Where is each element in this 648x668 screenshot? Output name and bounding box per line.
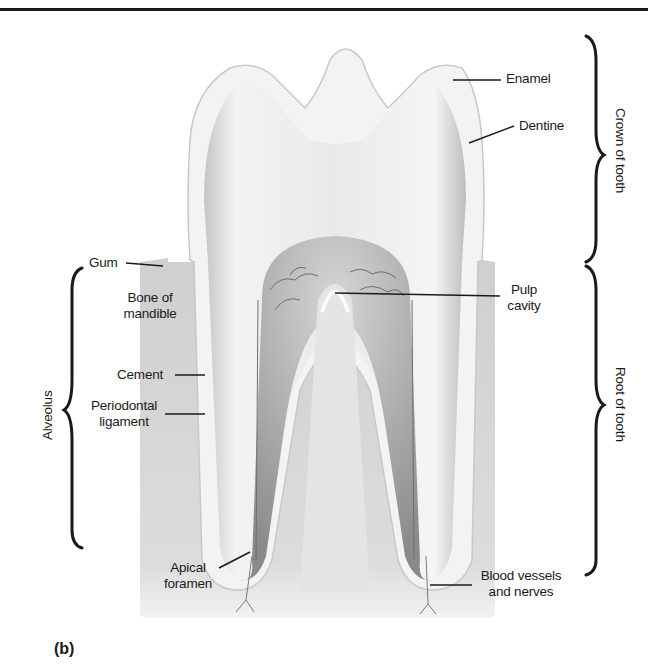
label-periodontal-ligament: Periodontal ligament (84, 398, 164, 430)
label-root-of-tooth: Root of tooth (613, 367, 628, 442)
crown-brace (586, 36, 604, 262)
label-blood-vessels-and-nerves: Blood vessels and nerves (474, 568, 568, 600)
label-apical-foramen: Apical foramen (160, 560, 216, 592)
label-pulp-cavity: Pulp cavity (504, 282, 544, 314)
label-cement: Cement (117, 367, 163, 383)
panel-label: (b) (54, 640, 74, 658)
label-alveolus: Alveolus (40, 391, 55, 440)
label-gum: Gum (89, 255, 118, 271)
label-dentine: Dentine (519, 118, 564, 134)
label-crown-of-tooth: Crown of tooth (613, 108, 628, 193)
alveolus-brace (64, 268, 82, 548)
label-bone-of-mandible: Bone of mandible (118, 290, 182, 322)
root-brace (586, 266, 604, 575)
label-enamel: Enamel (506, 71, 551, 87)
